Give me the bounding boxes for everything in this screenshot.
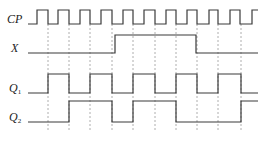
x-label-text: X (11, 41, 18, 55)
cp-signal-label: CP (7, 13, 22, 25)
dashed-guide-lines (48, 24, 241, 132)
q1-output-waveform (28, 74, 258, 93)
timing-diagram (0, 0, 266, 147)
cp-label-text: CP (7, 12, 22, 26)
q2-output-waveform (28, 101, 258, 122)
cp-clock-waveform (28, 10, 258, 24)
q1-label-text: Q (9, 81, 18, 95)
x-signal-label: X (11, 42, 18, 54)
q2-signal-label: Q2 (9, 111, 21, 125)
q2-label-subscript: 2 (18, 117, 22, 125)
q2-label-text: Q (9, 110, 18, 124)
q1-label-subscript: 1 (18, 88, 22, 96)
x-input-waveform (28, 35, 258, 53)
q1-signal-label: Q1 (9, 82, 21, 96)
